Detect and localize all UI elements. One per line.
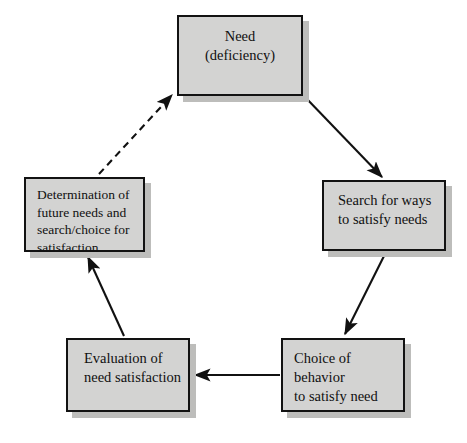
- edge-search-to-choice: [345, 256, 384, 334]
- motivation-cycle-diagram: Need (deficiency) Search for ways to sat…: [0, 0, 467, 443]
- node-determination-of-future-needs[interactable]: Determination of future needs and search…: [24, 177, 145, 252]
- edge-determination-to-need: [99, 95, 172, 174]
- node-evaluation-of-need-satisfaction[interactable]: Evaluation of need satisfaction: [66, 338, 190, 412]
- edge-evaluation-to-determination: [88, 257, 124, 336]
- node-search-for-ways-label: Search for ways to satisfy needs: [324, 182, 444, 229]
- node-evaluation-of-need-satisfaction-label: Evaluation of need satisfaction: [68, 340, 188, 387]
- node-need-label: Need (deficiency): [179, 17, 301, 65]
- node-need[interactable]: Need (deficiency): [177, 15, 303, 96]
- node-choice-of-behavior[interactable]: Choice of behavior to satisfy need: [281, 338, 405, 412]
- node-determination-of-future-needs-label: Determination of future needs and search…: [26, 179, 143, 256]
- node-choice-of-behavior-label: Choice of behavior to satisfy need: [283, 340, 403, 406]
- node-search-for-ways[interactable]: Search for ways to satisfy needs: [322, 180, 446, 251]
- edge-need-to-search: [305, 97, 382, 177]
